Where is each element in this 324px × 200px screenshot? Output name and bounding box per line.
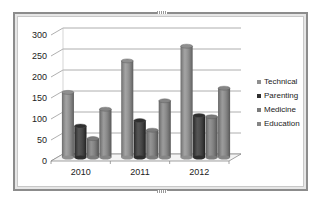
y-tick-label: 250 bbox=[32, 51, 47, 61]
legend-item[interactable]: Medicine bbox=[257, 105, 297, 114]
x-tick-label: 2012 bbox=[189, 167, 209, 177]
legend-item[interactable]: Parenting bbox=[257, 91, 298, 100]
y-tick-label: 50 bbox=[37, 135, 47, 145]
y-tick-label: 300 bbox=[32, 30, 47, 40]
gridline-side bbox=[51, 70, 63, 77]
legend-item[interactable]: Education bbox=[257, 119, 300, 128]
bar[interactable] bbox=[121, 59, 133, 160]
bars bbox=[62, 44, 230, 159]
bar[interactable] bbox=[62, 90, 74, 159]
gridline-side bbox=[51, 112, 63, 119]
gridline-side bbox=[51, 49, 63, 56]
bar[interactable] bbox=[181, 44, 193, 159]
y-tick-label: 100 bbox=[32, 114, 47, 124]
legend: TechnicalParentingMedicineEducation bbox=[257, 77, 300, 128]
legend-swatch-icon bbox=[257, 94, 261, 98]
bar[interactable] bbox=[134, 119, 146, 160]
y-tick-label: 0 bbox=[42, 156, 47, 166]
legend-label: Education bbox=[264, 119, 300, 128]
y-axis-ticks: 050100150200250300 bbox=[32, 30, 47, 166]
bar[interactable] bbox=[99, 107, 111, 159]
y-tick-label: 150 bbox=[32, 93, 47, 103]
x-axis-labels: 201020112012 bbox=[71, 167, 210, 177]
x-tick-label: 2010 bbox=[71, 167, 91, 177]
gridline-side bbox=[51, 91, 63, 98]
legend-label: Technical bbox=[264, 77, 298, 86]
bar[interactable] bbox=[159, 99, 171, 160]
legend-item[interactable]: Technical bbox=[257, 77, 298, 86]
bar[interactable] bbox=[74, 124, 86, 160]
gridline-side bbox=[51, 133, 63, 140]
legend-swatch-icon bbox=[257, 108, 261, 112]
y-tick-label: 200 bbox=[32, 72, 47, 82]
x-tick-label: 2011 bbox=[130, 167, 149, 177]
chart-plot: 050100150200250300 201020112012 Technica… bbox=[0, 0, 324, 200]
bar[interactable] bbox=[193, 114, 205, 160]
legend-swatch-icon bbox=[257, 122, 261, 126]
legend-label: Parenting bbox=[264, 91, 298, 100]
bar[interactable] bbox=[218, 86, 230, 159]
gridline-side bbox=[51, 28, 63, 35]
bar[interactable] bbox=[146, 128, 158, 159]
bar[interactable] bbox=[206, 115, 218, 160]
legend-swatch-icon bbox=[257, 80, 261, 84]
bar[interactable] bbox=[87, 137, 99, 160]
legend-label: Medicine bbox=[264, 105, 297, 114]
